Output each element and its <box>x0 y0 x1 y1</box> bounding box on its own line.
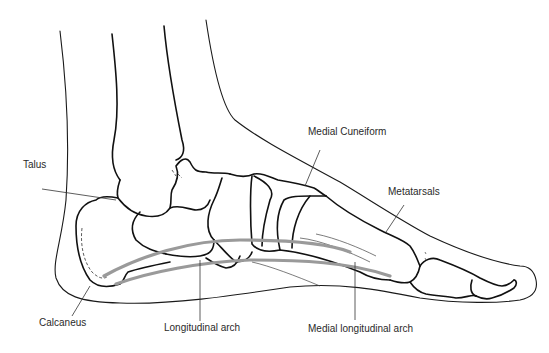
label-longitudinal-arch: Longitudinal arch <box>164 322 240 333</box>
label-medial-cuneiform: Medial Cuneiform <box>308 126 386 137</box>
phalanges-bones <box>410 252 516 299</box>
label-medial-longitudinal-arch: Medial longitudinal arch <box>308 323 413 334</box>
talus-bone <box>117 159 230 216</box>
label-metatarsals: Metatarsals <box>388 186 440 197</box>
longitudinal-arch-line <box>104 240 350 276</box>
label-calcaneus: Calcaneus <box>39 317 86 328</box>
cuneiform-bones <box>206 174 326 268</box>
leader-lines <box>42 150 404 321</box>
leg-bones <box>112 26 184 180</box>
medial-longitudinal-arch-line <box>116 260 390 284</box>
foot-anatomy-diagram <box>0 0 549 353</box>
label-talus: Talus <box>23 159 46 170</box>
arch-lines <box>104 240 390 284</box>
